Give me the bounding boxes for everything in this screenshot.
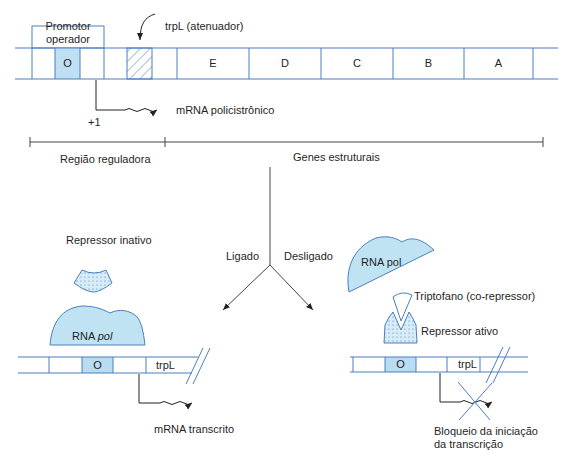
on-off-fork xyxy=(223,167,313,310)
attenuator-region xyxy=(127,48,152,79)
promoter-label-line1: Promotor xyxy=(32,20,104,33)
rna-pol-left-label: RNA pol xyxy=(72,330,112,343)
gene-A: A xyxy=(464,57,533,70)
blocked-transcription-arrow xyxy=(440,373,492,420)
inactive-repressor-label: Repressor inativo xyxy=(66,234,152,247)
plus-one-label: +1 xyxy=(88,116,101,129)
mrna-polycistronic-label: mRNA policistrônico xyxy=(176,104,274,117)
inactive-repressor-shape xyxy=(74,270,112,292)
block-label-line1: Bloqueio da iniciação xyxy=(434,425,538,438)
operon-bar-right xyxy=(350,347,528,383)
rna-pol-left-italic: pol xyxy=(98,330,113,342)
operator-label: O xyxy=(55,57,80,70)
operator-left-label: O xyxy=(82,359,113,372)
trpl-left-label: trpL xyxy=(156,359,175,372)
operon-bar-left xyxy=(18,348,210,384)
block-label: Bloqueio da iniciação da transcrição xyxy=(434,425,538,451)
promoter-label-line2: operador xyxy=(32,33,104,46)
regulatory-region-label: Região reguladora xyxy=(60,153,151,166)
tryptophan-label: Triptofano (co-repressor) xyxy=(414,290,535,303)
active-repressor-label: Repressor ativo xyxy=(421,325,498,338)
mrna-transcribed-label: mRNA transcrito xyxy=(154,423,234,436)
rna-pol-left-prefix: RNA xyxy=(72,330,98,342)
attenuator-pointer-arrow xyxy=(140,14,155,40)
attenuator-label: trpL (atenuador) xyxy=(165,20,243,33)
off-label: Desligado xyxy=(284,250,333,263)
trpl-right-label: trpL xyxy=(458,358,477,371)
on-label: Ligado xyxy=(226,250,259,263)
gene-D: D xyxy=(249,57,321,70)
mrna-polycistronic-arrow xyxy=(96,80,157,112)
operator-right-label: O xyxy=(385,358,416,371)
rna-pol-right-label: RNA pol xyxy=(361,256,401,269)
gene-C: C xyxy=(321,57,393,70)
mrna-transcribed-arrow xyxy=(139,374,192,405)
gene-E: E xyxy=(177,57,249,70)
structural-genes-label: Genes estruturais xyxy=(293,151,380,164)
region-brackets xyxy=(30,137,543,147)
promoter-label: Promotor operador xyxy=(32,20,104,46)
block-label-line2: da transcrição xyxy=(434,438,538,451)
gene-B: B xyxy=(393,57,464,70)
